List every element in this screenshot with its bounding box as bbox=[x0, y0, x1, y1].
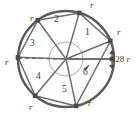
dimension-label: .28 r bbox=[113, 55, 130, 64]
vertex-dot-v3 bbox=[36, 18, 41, 23]
chord-label-r-4: r bbox=[5, 58, 9, 67]
chord-label-r-2: r bbox=[90, 1, 94, 10]
angle-label-6: 6 bbox=[83, 68, 88, 78]
angle-label-5: 5 bbox=[62, 85, 67, 95]
radius-to-v6 bbox=[66, 59, 76, 106]
vertex-dot-v1 bbox=[108, 39, 113, 44]
angle-label-1: 1 bbox=[85, 28, 90, 38]
chord-v1-v2 bbox=[79, 13, 110, 41]
dimension-unit: r bbox=[127, 54, 131, 64]
vertex-dot-v5 bbox=[33, 94, 38, 99]
angle-label-2: 2 bbox=[54, 15, 59, 25]
chord-label-r-5: r bbox=[29, 103, 33, 112]
dimension-value: .28 bbox=[113, 54, 124, 64]
geometry-figure: r r r r r r 1 2 3 4 5 6 .28 r bbox=[0, 0, 136, 119]
chord-label-r-3: r bbox=[30, 14, 34, 23]
angle-label-4: 4 bbox=[36, 72, 41, 82]
radius-to-v3 bbox=[38, 20, 66, 59]
vertex-dot-left-ref bbox=[16, 56, 20, 60]
chord-label-r-6: r bbox=[88, 99, 92, 108]
angle-label-3: 3 bbox=[30, 39, 35, 49]
chord-label-r-1: r bbox=[117, 28, 121, 37]
vertex-dot-v6 bbox=[74, 104, 79, 109]
vertex-dot-v2 bbox=[77, 11, 82, 16]
radius-to-v2 bbox=[66, 13, 79, 59]
